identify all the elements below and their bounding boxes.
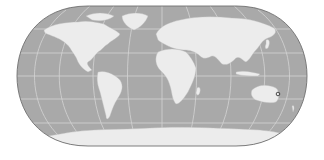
world-map [0,0,324,160]
map-canvas [0,0,324,160]
